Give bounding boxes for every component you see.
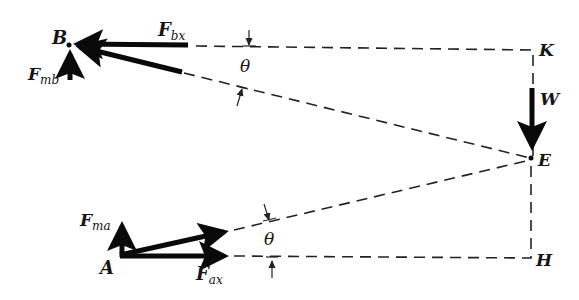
point-label-e: E — [537, 150, 552, 170]
construction-lines — [184, 46, 533, 258]
force-label-f-mb: Fmb — [27, 64, 59, 87]
force-f-bx-arrow — [78, 44, 188, 45]
angle-label-lower: θ — [264, 229, 274, 249]
dashed-line-b-to-e — [184, 73, 530, 158]
point-label-b: B — [51, 27, 67, 48]
point-e-dot — [529, 156, 534, 161]
force-inclined-a-arrow — [120, 232, 224, 255]
force-label-f-bx: Fbx — [157, 19, 185, 43]
point-b-forces — [67, 43, 189, 81]
force-inclined-b-arrow — [80, 47, 182, 72]
angle-indicator-upper: θ — [237, 30, 256, 106]
dashed-line-bottom-to-h — [234, 162, 531, 258]
angle-label-upper: θ — [240, 56, 250, 76]
point-label-a: A — [98, 257, 114, 278]
angle-indicator-lower: θ — [263, 204, 278, 278]
point-label-k: K — [538, 40, 555, 60]
angle-tick-lower-top-icon — [264, 204, 269, 220]
point-label-h: H — [535, 250, 553, 270]
mechanics-diagram: θ θ B K E A H Fbx Fmb W Fma Fax — [0, 0, 579, 300]
point-a-forces — [120, 226, 224, 257]
force-label-w: W — [540, 89, 561, 109]
dashed-line-a-to-e — [234, 160, 530, 230]
angle-tick-upper-bottom-icon — [237, 89, 242, 106]
force-label-f-ma: Fma — [79, 210, 111, 233]
force-label-f-ax: Fax — [195, 263, 223, 287]
point-b-dot — [67, 43, 72, 48]
